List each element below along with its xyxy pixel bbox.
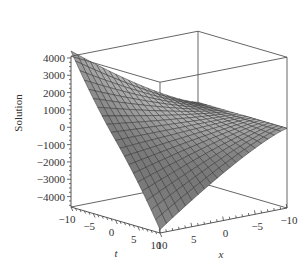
z-tick-label: 1000 xyxy=(43,104,66,116)
surface-mesh xyxy=(71,51,287,230)
x-tick-label: 10 xyxy=(157,239,169,251)
t-axis-title: t xyxy=(114,247,118,259)
z-tick-label: −4000 xyxy=(37,191,66,203)
t-tick-label: −10 xyxy=(58,213,76,225)
z-tick-label: 4000 xyxy=(43,52,66,64)
t-tick-label: 5 xyxy=(131,233,137,245)
x-tick-label: −10 xyxy=(280,214,298,226)
z-tick-label: 2000 xyxy=(43,87,66,99)
surface-plot: 40003000200010000−1000−2000−3000−4000 −1… xyxy=(0,0,307,272)
t-tick-label: 0 xyxy=(109,226,115,238)
t-tick-label: −5 xyxy=(83,220,95,232)
z-tick-label: −1000 xyxy=(37,139,66,151)
z-tick-label: 0 xyxy=(60,121,66,133)
x-tick-label: 0 xyxy=(223,227,229,239)
x-axis-title: x xyxy=(218,248,224,260)
t-axis: −10−50510 xyxy=(58,207,162,251)
z-tick-label: 3000 xyxy=(43,69,66,81)
x-tick-label: 5 xyxy=(191,233,197,245)
z-axis-title: Solution xyxy=(12,94,24,132)
z-tick-label: −2000 xyxy=(37,156,66,168)
z-tick-label: −3000 xyxy=(37,173,66,185)
x-tick-label: −5 xyxy=(251,220,263,232)
z-axis: 40003000200010000−1000−2000−3000−4000 xyxy=(37,52,71,207)
